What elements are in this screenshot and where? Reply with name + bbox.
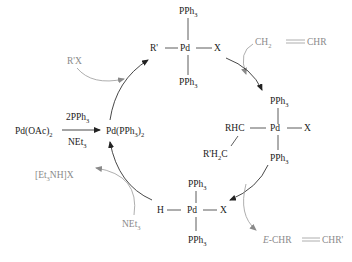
svg-text:Pd: Pd [270,123,280,133]
alkene-reagent: CH2 CHR [243,37,327,74]
svg-text:X: X [304,123,311,133]
svg-text:PPh3: PPh3 [270,96,289,108]
svg-text:2PPh3: 2PPh3 [66,112,89,124]
heck-cycle-diagram: PPh3 R' Pd X PPh3 CH2 CHR PPh3 RHC Pd X … [0,0,352,262]
ppph3-top: PPh3 [179,6,198,18]
salt-product: [Et3NH]X [35,170,74,182]
svg-text:RHC: RHC [225,123,245,133]
svg-text:Pd(OAc)2: Pd(OAc)2 [15,126,53,138]
svg-text:H: H [157,205,164,215]
svg-text:NEt3: NEt3 [68,137,87,149]
aryl-halide-arrow [77,68,124,81]
product: E-CHR CHR' [262,235,344,245]
svg-text:X: X [220,205,227,215]
svg-text:E-CHR: E-CHR [262,235,292,245]
svg-text:Pd: Pd [187,205,197,215]
precatalyst-activation: Pd(OAc)2 2PPh3 NEt3 Pd(PPh3)2 [15,112,144,149]
svg-text:PPh3: PPh3 [188,235,207,247]
svg-text:R'H2C: R'H2C [203,149,228,161]
svg-text:PPh3: PPh3 [270,153,289,165]
r-prime: R' [150,43,158,53]
complex-oxidative-addition: PPh3 R' Pd X PPh3 [150,6,221,89]
aryl-halide: R'X [67,56,82,66]
complex-insertion: PPh3 RHC Pd X PPh3 R'H2C [203,96,311,165]
complex-hydride: PPh3 H Pd X PPh3 [157,179,227,247]
halide-x: X [214,43,221,53]
svg-text:CHR: CHR [307,37,327,47]
ppph3-bottom: PPh3 [179,77,198,89]
pd-atom: Pd [180,43,190,53]
active-catalyst: Pd(PPh3)2 [106,126,144,138]
insertion-arrow [226,58,262,90]
elimination-arrow [230,165,268,200]
svg-text:CHR': CHR' [322,235,344,245]
alkene-arrow [243,44,253,74]
oxidative-addition-arrow [110,60,148,120]
svg-text:CH2: CH2 [255,37,271,49]
base-arrow [96,168,135,215]
svg-text:PPh3: PPh3 [188,179,207,191]
base-net3: NEt3 [122,219,141,231]
product-arrow [244,184,256,230]
regeneration-arrow [110,142,152,200]
